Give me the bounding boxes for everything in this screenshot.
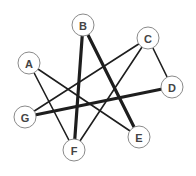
node-label: F [71,145,78,157]
edge-a-f [29,63,74,150]
graph-diagram: ABCDEFG [0,0,196,176]
node-a: A [18,52,40,74]
node-label: G [21,112,30,124]
nodes-layer: ABCDEFG [14,14,183,161]
graph-canvas: ABCDEFG [0,0,196,176]
edge-a-e [29,63,139,137]
node-d: D [161,76,183,98]
node-f: F [63,139,85,161]
edge-b-e [83,25,139,137]
node-label: B [79,20,87,32]
node-g: G [14,106,36,128]
edge-b-f [74,25,83,150]
node-b: B [72,14,94,36]
node-e: E [128,126,150,148]
node-label: D [168,82,176,94]
node-label: E [135,132,142,144]
node-label: C [144,33,152,45]
node-c: C [137,27,159,49]
node-label: A [25,58,33,70]
